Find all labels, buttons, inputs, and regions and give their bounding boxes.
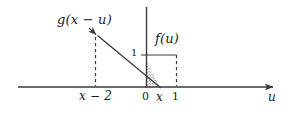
g-ramp-line [98, 36, 162, 89]
g-function-label: g(x − u) [57, 13, 112, 26]
g-label-pointer [89, 28, 96, 35]
f-function-label: f(u) [155, 32, 179, 45]
x-axis-tick-label-x: x [156, 91, 163, 103]
convolution-figure: g(x − u) f(u) 1 x − 2 0 x 1 u [0, 0, 290, 116]
u-axis-label: u [268, 91, 276, 103]
y-axis-tick-label-one: 1 [131, 48, 137, 58]
x-axis-tick-label-one: 1 [172, 91, 179, 102]
x-axis-tick-label-x-minus-2: x − 2 [79, 90, 112, 102]
x-axis-tick-label-zero: 0 [142, 91, 149, 102]
overlap-shaded-region [147, 62, 161, 88]
